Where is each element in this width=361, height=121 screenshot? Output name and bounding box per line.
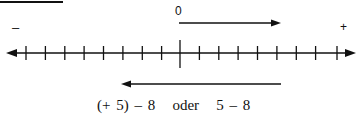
zero-label: 0 [175, 5, 182, 17]
subtract-arrow [121, 81, 281, 88]
number-line-axis [6, 40, 356, 68]
positive-sign-label: + [340, 21, 347, 33]
tick-marks [26, 40, 337, 68]
start-arrow [179, 20, 281, 27]
right-arrowhead-icon [345, 49, 356, 57]
expression-label: (+ 5) – 8 oder 5 – 8 [97, 98, 250, 113]
negative-sign-label: – [12, 21, 19, 34]
left-arrowhead-icon [6, 49, 17, 57]
